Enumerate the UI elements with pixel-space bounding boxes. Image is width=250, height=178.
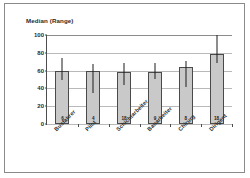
bar-group[interactable]: 4 [78,35,109,124]
chart-title: Median (Range) [26,17,73,24]
y-tick-label: 100 [34,32,44,38]
y-tick-label: 0 [41,121,44,127]
y-tick-label: 60 [37,68,44,74]
x-tick-mark [140,124,141,127]
figure-frame: Median (Range) 020406080100 64189818 Bus… [4,3,245,173]
x-tick-mark [78,124,79,127]
x-tick-mark [232,124,233,127]
bar-group[interactable]: 8 [170,35,201,124]
error-bar [154,63,155,79]
y-tick-label: 40 [37,85,44,91]
error-bar [93,64,94,92]
chart-screenshot: Median (Range) 020406080100 64189818 Bus… [0,0,250,178]
error-bar [185,61,186,88]
error-bar [216,35,217,63]
x-tick-mark [201,124,202,127]
y-tick-label: 80 [37,50,44,56]
y-tick-label: 20 [37,103,44,109]
error-bar [124,63,125,84]
bar-group[interactable]: 18 [201,35,232,124]
error-bar [62,58,63,80]
x-tick-mark [109,124,110,127]
x-tick-mark [170,124,171,127]
